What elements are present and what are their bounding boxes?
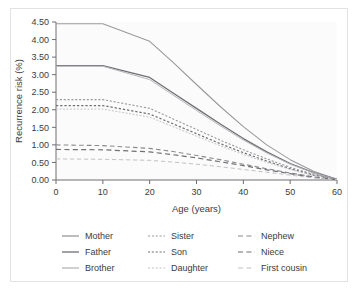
legend-label: Brother xyxy=(85,263,115,273)
y-axis-title: Recurrence risk (%) xyxy=(13,59,24,143)
y-tick-label: 4.00 xyxy=(31,35,49,45)
legend-item-nephew[interactable]: Nephew xyxy=(238,231,295,241)
plot-background xyxy=(56,22,337,180)
legend-label: Nephew xyxy=(261,231,295,241)
x-tick-label: 0 xyxy=(53,187,58,197)
recurrence-risk-chart: 0.000.501.001.502.002.503.003.504.004.50… xyxy=(0,0,357,290)
x-tick-label: 20 xyxy=(145,187,155,197)
y-tick-label: 1.00 xyxy=(31,140,49,150)
x-tick-label: 50 xyxy=(285,187,295,197)
figure-container: 0.000.501.001.502.002.503.003.504.004.50… xyxy=(0,0,357,290)
legend-item-niece[interactable]: Niece xyxy=(238,247,284,257)
legend-item-mother[interactable]: Mother xyxy=(62,231,113,241)
y-tick-label: 3.00 xyxy=(31,70,49,80)
y-tick-label: 4.50 xyxy=(31,17,49,27)
y-tick-label: 0.00 xyxy=(31,175,49,185)
y-tick-label: 1.50 xyxy=(31,123,49,133)
legend-label: First cousin xyxy=(261,263,307,273)
legend-label: Niece xyxy=(261,247,284,257)
y-tick-label: 2.50 xyxy=(31,87,49,97)
legend-item-first-cousin[interactable]: First cousin xyxy=(238,263,307,273)
x-tick-label: 10 xyxy=(98,187,108,197)
y-tick-label: 2.00 xyxy=(31,105,49,115)
legend-item-daughter[interactable]: Daughter xyxy=(148,263,208,273)
legend-label: Daughter xyxy=(171,263,208,273)
legend-item-father[interactable]: Father xyxy=(62,247,111,257)
legend-label: Mother xyxy=(85,231,113,241)
legend-item-brother[interactable]: Brother xyxy=(62,263,115,273)
x-axis-title: Age (years) xyxy=(172,203,221,214)
legend-item-son[interactable]: Son xyxy=(148,247,187,257)
legend-label: Father xyxy=(85,247,111,257)
x-tick-label: 30 xyxy=(191,187,201,197)
y-tick-label: 0.50 xyxy=(31,158,49,168)
y-tick-label: 3.50 xyxy=(31,52,49,62)
legend-label: Son xyxy=(171,247,187,257)
legend-item-sister[interactable]: Sister xyxy=(148,231,194,241)
x-tick-label: 40 xyxy=(238,187,248,197)
x-tick-label: 60 xyxy=(332,187,342,197)
legend-label: Sister xyxy=(171,231,194,241)
